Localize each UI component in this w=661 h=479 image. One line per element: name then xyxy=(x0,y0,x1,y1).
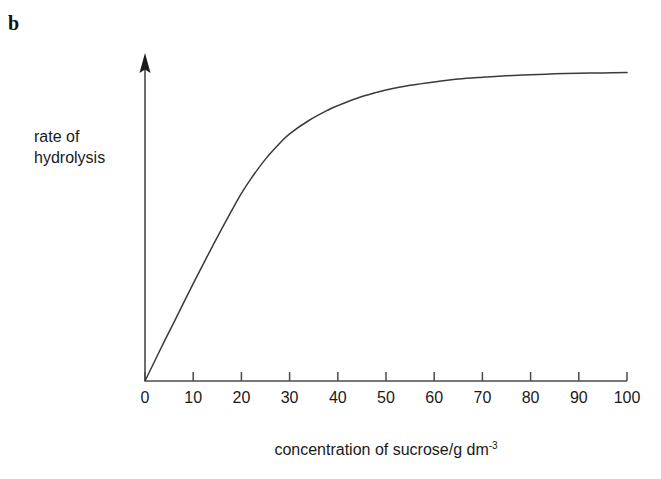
data-curve-group xyxy=(145,73,627,381)
part-label-b: b xyxy=(8,12,19,34)
figure-panel: b rate of hydrolysis 0102030405060708090… xyxy=(0,0,661,479)
x-axis-ticks xyxy=(145,372,627,381)
axes-group xyxy=(140,53,628,381)
x-axis-title-text: concentration of sucrose/g dm xyxy=(274,441,488,458)
x-axis-tick-label: 100 xyxy=(597,389,657,407)
plot-area xyxy=(0,0,661,479)
x-axis-title-superscript: -3 xyxy=(489,440,498,451)
y-axis-title: rate of hydrolysis xyxy=(34,126,134,168)
x-axis-title: concentration of sucrose/g dm-3 xyxy=(145,440,627,460)
rate-of-hydrolysis-curve xyxy=(145,73,627,381)
